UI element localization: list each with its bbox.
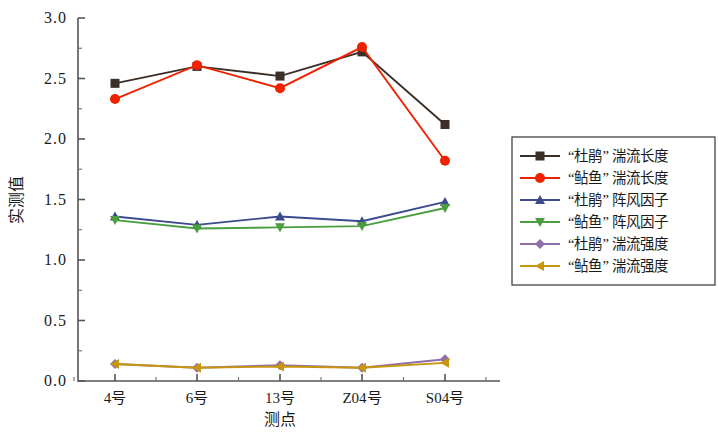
- x-tick-label: 4号: [104, 390, 127, 406]
- marker-square: [441, 120, 450, 129]
- series-2: [110, 42, 450, 166]
- legend-label: “鲇鱼” 湍流强度: [568, 257, 669, 274]
- y-tick-label: 1.5: [44, 191, 67, 208]
- legend: “杜鹃” 湍流长度“鲇鱼” 湍流长度“杜鹃” 阵风因子“鲇鱼” 阵风因子“杜鹃”…: [512, 137, 715, 285]
- marker-square: [111, 79, 120, 88]
- y-tick-label: 2.0: [44, 130, 67, 147]
- marker-circle: [440, 156, 450, 166]
- marker-circle: [192, 60, 202, 70]
- series-5: [110, 354, 450, 372]
- y-tick-label: 3.0: [44, 9, 67, 26]
- series-line: [115, 47, 445, 161]
- x-tick-label: 13号: [265, 390, 295, 406]
- legend-label: “鲇鱼” 湍流长度: [568, 169, 669, 186]
- legend-label: “鲇鱼” 阵风因子: [568, 213, 669, 230]
- marker-circle: [357, 42, 367, 52]
- y-axis-title: 实测值: [8, 176, 25, 224]
- legend-label: “杜鹃” 湍流长度: [568, 148, 669, 164]
- legend-label: “杜鹃” 阵风因子: [568, 192, 669, 208]
- x-tick-label: S04号: [426, 390, 464, 406]
- marker-circle: [275, 83, 285, 93]
- marker-circle: [110, 94, 120, 104]
- x-tick-label: 6号: [186, 390, 209, 406]
- line-chart: 0.00.51.01.52.02.53.04号6号13号Z04号S04号测点实测…: [0, 0, 718, 435]
- y-tick-label: 0.0: [44, 372, 67, 389]
- marker-square: [276, 72, 285, 81]
- y-tick-label: 2.5: [44, 70, 67, 87]
- x-axis-title: 测点: [264, 411, 296, 428]
- y-tick-label: 1.0: [44, 251, 67, 268]
- chart-figure: 0.00.51.01.52.02.53.04号6号13号Z04号S04号测点实测…: [0, 0, 718, 435]
- series-6: [110, 358, 449, 373]
- y-tick-label: 0.5: [44, 312, 67, 329]
- legend-label: “杜鹃” 湍流强度: [568, 236, 669, 252]
- x-tick-label: Z04号: [342, 390, 381, 406]
- marker-circle: [535, 173, 545, 183]
- marker-square: [536, 152, 545, 161]
